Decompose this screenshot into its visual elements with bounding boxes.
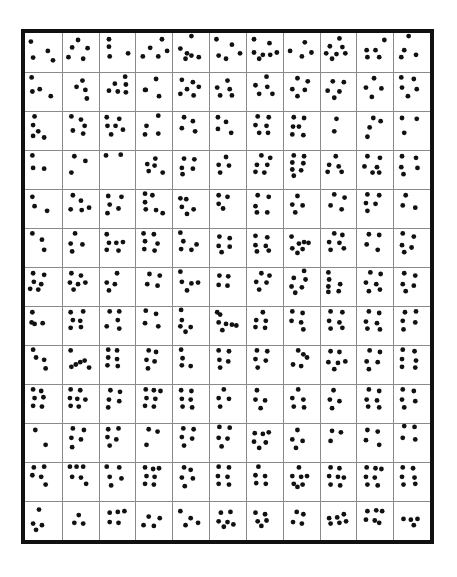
point-marker [267,273,272,278]
point-marker [255,365,260,370]
point-marker [344,519,349,524]
point-marker [336,289,341,294]
point-marker [225,436,230,441]
point-marker [143,88,148,93]
point-marker [40,237,45,242]
point-marker [80,78,85,83]
point-marker [160,170,165,175]
point-marker [375,398,380,403]
point-marker [224,322,229,327]
point-marker [182,156,187,161]
point-marker [179,308,184,313]
point-marker [79,208,84,213]
point-marker [297,465,302,470]
point-marker [179,388,184,393]
point-marker [145,282,150,287]
point-marker [42,357,47,362]
point-marker [155,241,160,246]
point-marker [406,94,411,99]
point-marker [107,520,112,525]
point-marker [182,465,187,470]
point-marker [377,405,382,410]
point-marker [414,116,419,121]
point-marker [227,349,232,354]
point-marker [216,320,221,325]
point-marker [263,318,268,323]
point-marker [328,247,333,252]
point-marker [331,388,336,393]
point-marker [265,162,270,167]
point-marker [414,358,419,363]
point-marker [364,48,369,53]
point-marker [30,89,35,94]
point-marker [253,83,258,88]
point-marker [72,154,77,159]
point-marker [289,318,294,323]
point-marker [143,387,148,392]
point-marker [375,165,380,170]
point-marker [42,135,47,140]
point-marker [39,389,44,394]
point-marker [123,90,128,95]
point-marker [227,244,232,249]
point-marker [42,247,47,252]
point-marker [83,159,88,164]
point-marker [327,474,332,479]
point-marker [83,88,88,93]
point-marker [104,153,109,158]
point-marker [400,243,405,248]
point-marker [183,56,188,61]
point-marker [214,37,219,42]
point-marker [366,404,371,409]
point-marker [340,325,345,330]
point-marker [399,165,404,170]
point-marker [293,290,298,295]
point-marker [216,244,221,249]
point-marker [188,325,193,330]
point-marker [31,279,36,284]
point-marker [299,364,304,369]
point-marker [328,521,333,526]
point-marker [327,240,332,245]
point-marker [225,283,230,288]
point-marker [39,282,44,287]
point-marker [289,284,294,289]
point-marker [326,270,331,275]
point-marker [378,327,383,332]
point-marker [302,240,307,245]
point-marker [377,170,382,175]
point-marker [151,524,156,529]
point-marker [375,429,380,434]
point-marker [191,427,196,432]
point-marker [31,123,36,128]
point-marker [51,58,56,63]
point-marker [290,309,295,314]
point-marker [30,473,35,478]
point-marker [408,517,413,522]
point-marker [414,87,419,92]
point-marker [156,113,161,118]
point-marker [364,85,369,90]
point-marker [115,348,120,353]
point-marker [117,399,122,404]
point-marker [341,246,346,251]
point-marker [70,45,75,50]
point-marker [179,77,184,82]
point-marker [70,128,75,133]
point-marker [325,88,330,93]
point-marker [105,435,110,440]
point-marker [364,359,369,364]
point-marker [188,516,193,521]
point-marker [83,397,88,402]
point-marker [119,476,124,481]
point-marker [295,428,300,433]
point-marker [180,404,185,409]
point-marker [68,325,73,330]
point-marker [264,74,269,79]
point-marker [218,365,223,370]
point-marker [328,465,333,470]
point-marker [188,467,193,472]
point-marker [265,235,270,240]
point-marker [151,388,156,393]
point-marker [330,56,335,61]
